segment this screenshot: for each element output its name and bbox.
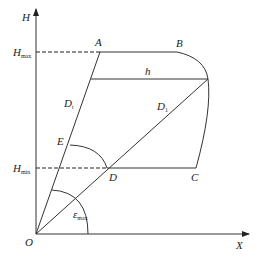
line-o-a: [36, 52, 100, 234]
dt-main: D: [64, 97, 72, 109]
diagram-svg: [0, 0, 262, 260]
h-min-sub: min: [21, 169, 30, 175]
y-axis-label: H: [22, 12, 30, 23]
h-max-sub: max: [21, 53, 31, 59]
arc-e-d: [70, 145, 107, 168]
point-c-label: C: [191, 172, 198, 183]
dt-sub: t: [72, 104, 74, 110]
origin-label: O: [25, 237, 33, 248]
x-axis-label: X: [236, 240, 243, 251]
h-max-main: H: [13, 46, 21, 58]
point-d-label: D: [109, 172, 117, 183]
point-e-label: E: [57, 136, 64, 147]
h-max-label: Hmax: [13, 47, 31, 59]
line-o-d1: [36, 79, 208, 234]
h-min-label: Hmin: [13, 163, 30, 175]
h-min-main: H: [13, 162, 21, 174]
diagram-canvas: H X O Hmax Hmin A B C D E h Dt D1 εmax: [0, 0, 262, 260]
epsilon-sub: max: [77, 215, 87, 221]
curve-b-c: [177, 52, 209, 168]
point-b-label: B: [176, 38, 183, 49]
segment-dt-label: Dt: [64, 98, 74, 110]
d1-main: D: [157, 100, 165, 112]
point-a-label: A: [95, 37, 102, 48]
segment-h-label: h: [145, 66, 151, 77]
angle-epsilon-max-label: εmax: [73, 209, 88, 221]
d1-sub: 1: [165, 107, 168, 113]
segment-d1-label: D1: [157, 101, 168, 113]
